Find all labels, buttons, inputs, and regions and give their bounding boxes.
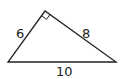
side-label-base: 10	[56, 64, 73, 79]
side-label-right: 8	[82, 26, 90, 41]
triangle-diagram: 6 8 10	[0, 0, 120, 79]
right-angle-marker	[42, 15, 50, 20]
side-label-left: 6	[16, 26, 24, 41]
